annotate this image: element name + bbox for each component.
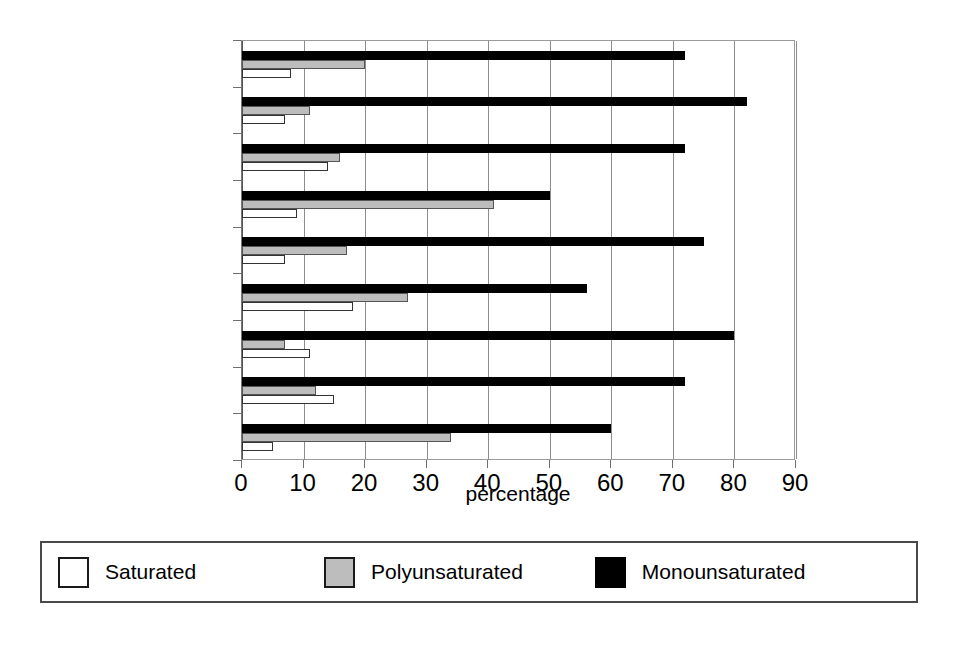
x-axis-tick — [303, 460, 304, 468]
x-axis-title: percentage — [241, 482, 795, 506]
gridline-90 — [796, 41, 797, 459]
bar-sat — [242, 255, 285, 264]
legend-label: Monounsaturated — [642, 560, 805, 584]
bar-group — [242, 228, 794, 275]
x-axis-tick — [795, 460, 796, 468]
bar-sat — [242, 349, 310, 358]
bar-mono — [242, 424, 611, 433]
bar-poly — [242, 433, 451, 442]
bar-mono — [242, 237, 704, 246]
bar-groups — [242, 41, 794, 459]
bar-sat — [242, 302, 353, 311]
bar-sat — [242, 442, 273, 451]
bar-poly — [242, 246, 347, 255]
x-axis-tick — [487, 460, 488, 468]
bar-group — [242, 41, 794, 88]
bar-mono — [242, 377, 685, 386]
bar-mono — [242, 191, 550, 200]
y-axis-tick — [233, 180, 241, 181]
bar-poly — [242, 106, 310, 115]
legend-item: Monounsaturated — [595, 557, 805, 588]
bar-poly — [242, 386, 316, 395]
bar-poly — [242, 293, 408, 302]
legend-swatch-sat — [58, 557, 89, 588]
y-axis-tick — [233, 367, 241, 368]
legend-label: Polyunsaturated — [371, 560, 523, 584]
bar-mono — [242, 97, 747, 106]
bar-mono — [242, 144, 685, 153]
x-axis-tick — [241, 460, 242, 468]
bar-group — [242, 368, 794, 415]
y-axis-tick — [233, 227, 241, 228]
fat-composition-bar-chart: AlmondsHazelnutsPistachiosSesameSunflowe… — [0, 0, 960, 645]
bar-poly — [242, 153, 340, 162]
x-axis-tick — [672, 460, 673, 468]
plot-area — [241, 40, 795, 460]
y-axis-tick — [233, 40, 241, 41]
bar-group — [242, 88, 794, 135]
bar-mono — [242, 51, 685, 60]
bar-sat — [242, 115, 285, 124]
y-axis-tick — [233, 460, 241, 461]
x-axis-tick — [364, 460, 365, 468]
bar-group — [242, 274, 794, 321]
y-axis-tick — [233, 320, 241, 321]
bar-sat — [242, 209, 297, 218]
x-axis-tick — [549, 460, 550, 468]
y-axis-tick — [233, 87, 241, 88]
legend-item: Saturated — [58, 557, 196, 588]
bar-sat — [242, 69, 291, 78]
y-axis-tick — [233, 133, 241, 134]
bar-group — [242, 134, 794, 181]
bar-poly — [242, 200, 494, 209]
bar-mono — [242, 284, 587, 293]
y-axis-tick — [233, 273, 241, 274]
legend-item: Polyunsaturated — [324, 557, 523, 588]
legend-label: Saturated — [105, 560, 196, 584]
legend-swatch-mono — [595, 557, 626, 588]
bar-group — [242, 414, 794, 461]
chart-legend: SaturatedPolyunsaturatedMonounsaturated — [40, 541, 918, 603]
bar-poly — [242, 340, 285, 349]
bar-group — [242, 321, 794, 368]
bar-poly — [242, 60, 365, 69]
bar-sat — [242, 395, 334, 404]
bar-mono — [242, 331, 734, 340]
bar-group — [242, 181, 794, 228]
legend-swatch-poly — [324, 557, 355, 588]
bar-sat — [242, 162, 328, 171]
x-axis-tick — [426, 460, 427, 468]
x-axis-tick — [610, 460, 611, 468]
y-axis-tick — [233, 413, 241, 414]
x-axis-tick — [733, 460, 734, 468]
